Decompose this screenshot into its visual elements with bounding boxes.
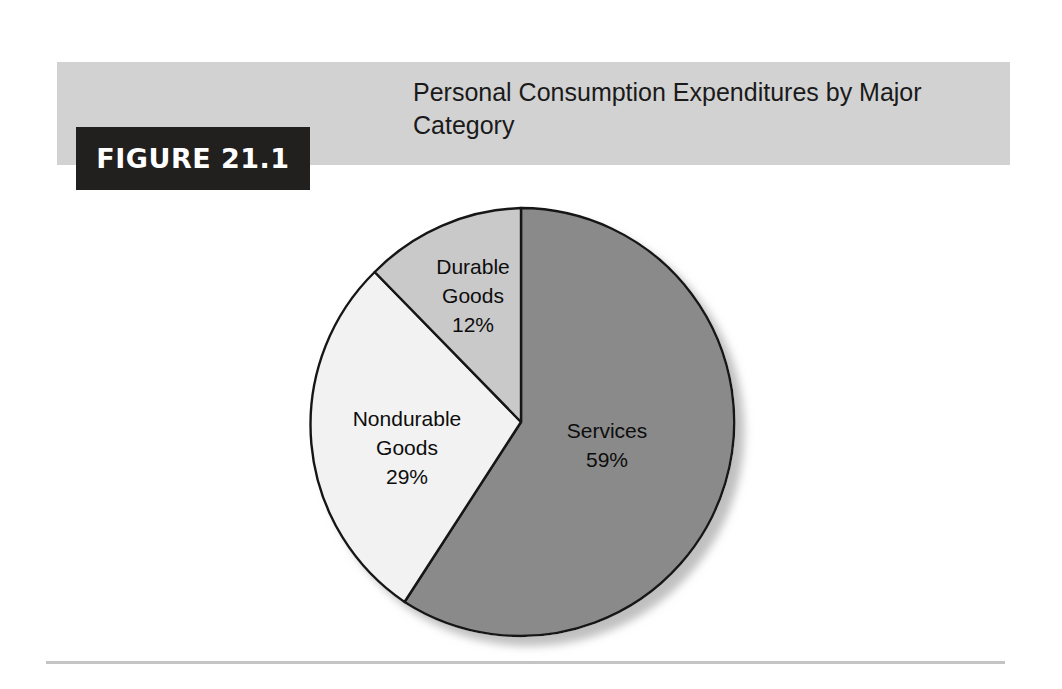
durable-goods-name-line1: Durable xyxy=(436,255,510,278)
durable-goods-percent: 12% xyxy=(413,310,533,339)
pie-label-nondurable-goods: Nondurable Goods 29% xyxy=(317,404,497,491)
nondurable-goods-percent: 29% xyxy=(317,462,497,491)
durable-goods-name-line2: Goods xyxy=(442,284,504,307)
pie-label-durable-goods: Durable Goods 12% xyxy=(413,252,533,339)
figure-bottom-rule xyxy=(46,661,1005,664)
pie-label-services: Services 59% xyxy=(552,416,662,474)
nondurable-goods-name-line1: Nondurable xyxy=(353,407,462,430)
services-name: Services xyxy=(567,419,648,442)
services-percent: 59% xyxy=(552,445,662,474)
nondurable-goods-name-line2: Goods xyxy=(376,436,438,459)
pie-chart: Durable Goods 12% Nondurable Goods 29% S… xyxy=(0,0,1062,689)
pie-chart-svg xyxy=(0,0,1062,689)
